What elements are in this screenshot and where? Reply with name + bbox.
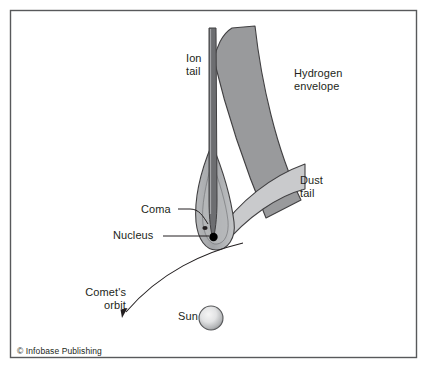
label-ion-tail: Ion tail: [186, 52, 202, 78]
label-copyright: © Infobase Publishing: [17, 345, 102, 358]
label-dust-tail: Dust tail: [300, 174, 323, 200]
label-sun: Sun: [178, 310, 198, 323]
label-coma: Coma: [141, 203, 171, 216]
comet-diagram-figure: Ion tail Hydrogen envelope Dust tail Com…: [0, 0, 428, 371]
label-nucleus: Nucleus: [113, 229, 153, 242]
comet-diagram-canvas: [0, 0, 428, 371]
label-hydrogen-envelope: Hydrogen envelope: [294, 67, 343, 93]
nucleus-dot: [209, 233, 217, 241]
label-comets-orbit: Comet's orbit: [60, 286, 126, 312]
coma-speck: [202, 226, 207, 230]
sun-sphere: [199, 306, 223, 330]
